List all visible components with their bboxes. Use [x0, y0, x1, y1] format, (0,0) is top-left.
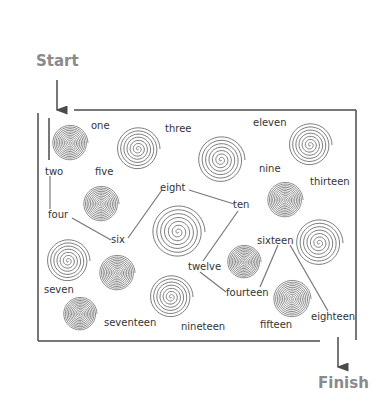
- spiral-icon: [153, 206, 205, 256]
- spiral-icon: [53, 125, 88, 159]
- word-nineteen: nineteen: [181, 322, 225, 332]
- spiral-icon: [64, 297, 97, 329]
- maze-diagram: Start Finish onetwothreefourfivesixseven…: [0, 0, 374, 409]
- word-twelve: twelve: [188, 262, 221, 272]
- word-fourteen: fourteen: [226, 288, 269, 298]
- spiral-icon: [290, 124, 332, 165]
- spiral-icon: [84, 186, 119, 220]
- finish-label: Finish: [318, 374, 369, 392]
- path-segment: [189, 190, 234, 204]
- word-seventeen: seventeen: [104, 318, 156, 328]
- word-nine: nine: [259, 164, 281, 174]
- spiral-icon: [274, 280, 311, 316]
- word-thirteen: thirteen: [310, 177, 350, 187]
- word-eleven: eleven: [253, 118, 287, 128]
- spiral-obstacles: [48, 124, 343, 330]
- word-four: four: [48, 210, 68, 220]
- spiral-icon: [100, 255, 135, 289]
- word-ten: ten: [233, 200, 249, 210]
- word-eighteen: eighteen: [311, 312, 355, 322]
- word-sixteen: sixteen: [257, 236, 293, 246]
- path-segment: [72, 218, 111, 240]
- word-two: two: [45, 167, 63, 177]
- spiral-icon: [228, 245, 261, 277]
- path-segment: [260, 245, 278, 287]
- word-seven: seven: [44, 285, 74, 295]
- word-one: one: [91, 121, 110, 131]
- spiral-icon: [268, 182, 303, 216]
- start-label: Start: [36, 52, 79, 70]
- word-eight: eight: [160, 183, 186, 193]
- path-segment: [203, 211, 238, 261]
- spiral-icon: [297, 220, 343, 265]
- spiral-icon: [118, 128, 160, 169]
- word-three: three: [165, 124, 191, 134]
- word-fifteen: fifteen: [260, 320, 292, 330]
- path-segment: [200, 272, 226, 292]
- spiral-icon: [199, 137, 245, 182]
- spiral-icon: [151, 276, 193, 317]
- word-six: six: [111, 235, 125, 245]
- word-five: five: [95, 167, 113, 177]
- spiral-icon: [48, 240, 90, 281]
